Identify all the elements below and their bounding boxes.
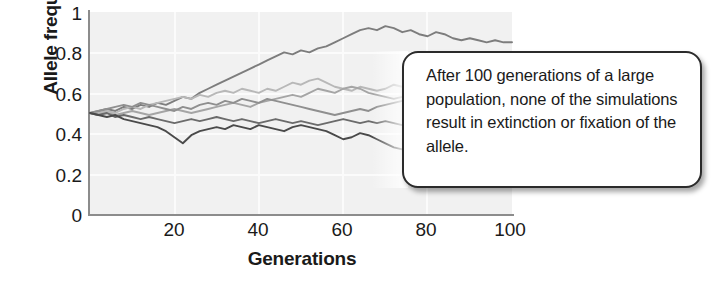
y-tick-label: 0	[71, 206, 82, 225]
x-tick-label: 100	[480, 220, 540, 239]
callout-text: After 100 generations of a large populat…	[426, 64, 688, 158]
allele-frequency-figure: 1 0.8 0.6 0.4 0.2 0 20 40 60 80 100 Alle…	[0, 0, 716, 284]
x-tick-label: 60	[312, 220, 372, 239]
x-tick-label: 40	[228, 220, 288, 239]
y-tick-label: 0.2	[56, 166, 82, 185]
x-axis-title: Generations	[90, 248, 514, 270]
y-tick-label: 1	[71, 4, 82, 23]
x-axis-line	[88, 214, 514, 216]
y-axis-title: Allele frequency	[38, 0, 64, 126]
y-tick-label: 0.4	[56, 125, 82, 144]
x-tick-label: 20	[144, 220, 204, 239]
callout-box: After 100 generations of a large populat…	[402, 51, 702, 188]
x-tick-label: 80	[396, 220, 456, 239]
